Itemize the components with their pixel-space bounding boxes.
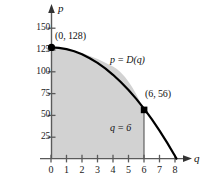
y-axis-arrow-icon — [48, 4, 55, 13]
x-tick-label-0: 0 — [44, 164, 58, 175]
y-axis-label: p — [58, 2, 64, 14]
x-tick-label-8: 8 — [168, 164, 182, 175]
x-axis-arrow-icon — [183, 155, 192, 162]
x-tick-label-5: 5 — [122, 164, 136, 175]
x-tick-label-6: 6 — [137, 164, 151, 175]
point-label-0-128: (0, 128) — [55, 30, 86, 41]
vertical-line-label: q = 6 — [110, 122, 131, 133]
chart-canvas — [0, 0, 204, 186]
x-tick-label-7: 7 — [153, 164, 167, 175]
demand-curve-figure: 150 125 100 75 50 25 0 1 2 3 4 5 6 7 8 p… — [0, 0, 204, 186]
point-label-6-56: (6, 56) — [145, 88, 171, 99]
y-tick-label-25: 25 — [41, 131, 50, 141]
data-point-6-56 — [141, 107, 148, 114]
x-tick-label-3: 3 — [91, 164, 105, 175]
y-tick-label-125: 125 — [36, 44, 50, 54]
x-tick-label-2: 2 — [75, 164, 89, 175]
y-tick-label-150: 150 — [36, 22, 50, 32]
y-tick-label-100: 100 — [36, 66, 50, 76]
x-tick-label-1: 1 — [60, 164, 74, 175]
y-tick-label-50: 50 — [41, 109, 50, 119]
y-tick-label-75: 75 — [41, 88, 50, 98]
curve-label: p = D(q) — [110, 54, 145, 65]
x-tick-label-4: 4 — [106, 164, 120, 175]
x-axis-label: q — [194, 152, 200, 164]
